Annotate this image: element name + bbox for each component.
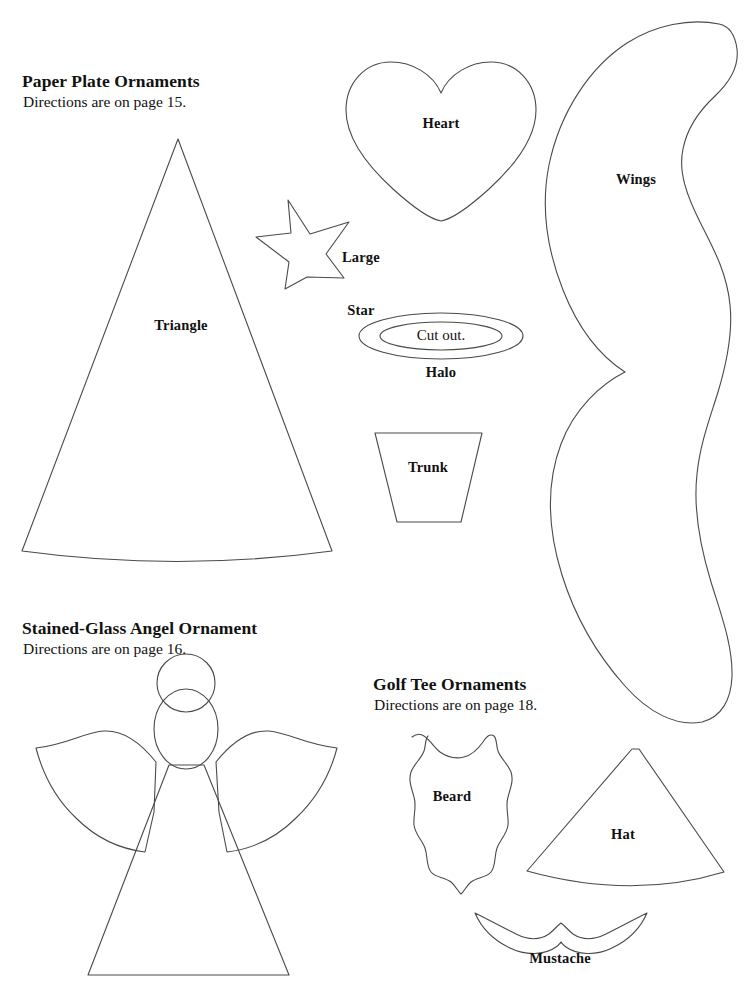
beard-label: Beard (433, 788, 472, 805)
heart-label: Heart (423, 115, 460, 132)
section-subtitle-golf-tee: Directions are on page 18. (374, 696, 537, 714)
large-star-label: Large Star (342, 214, 380, 356)
section-title-golf-tee: Golf Tee Ornaments (373, 674, 526, 695)
section-title-stained-glass-angel: Stained-Glass Angel Ornament (22, 618, 257, 639)
angel-body-triangle (88, 765, 289, 975)
angel-shape (36, 654, 337, 975)
mustache-shape (475, 913, 647, 954)
triangle-label: Triangle (154, 317, 207, 334)
section-subtitle-stained-glass-angel: Directions are on page 16. (23, 640, 186, 658)
hat-label: Hat (611, 826, 635, 843)
angel-right-wing (216, 731, 337, 852)
pattern-page: Paper Plate Ornaments Directions are on … (0, 0, 745, 984)
trunk-label: Trunk (408, 459, 448, 476)
halo-label: Halo (426, 364, 456, 381)
trunk-shape (375, 433, 482, 522)
section-subtitle-paper-plate: Directions are on page 15. (23, 93, 186, 111)
large-star-label-line1: Large (342, 249, 380, 267)
section-title-paper-plate: Paper Plate Ornaments (22, 71, 200, 92)
large-star-label-line2: Star (342, 302, 380, 320)
large-star-shape (256, 200, 349, 289)
hat-shape (527, 749, 724, 886)
heart-shape (346, 62, 536, 221)
wings-shape (545, 22, 737, 723)
angel-left-wing (36, 731, 156, 852)
beard-shape (410, 734, 512, 894)
mustache-label: Mustache (529, 950, 591, 967)
angel-halo-circle (157, 654, 215, 712)
angel-head-ellipse (154, 689, 218, 769)
halo-cut-out-label: Cut out. (417, 327, 465, 345)
wings-label: Wings (616, 171, 656, 188)
triangle-shape (22, 139, 332, 562)
